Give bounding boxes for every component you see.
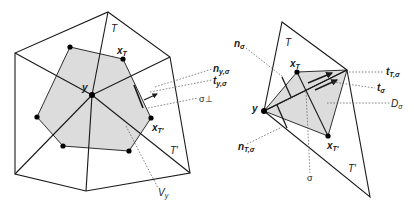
label-xT-right: xT <box>289 58 301 70</box>
label-xTp-left: xT′ <box>151 122 164 134</box>
label-t-T-sigma: tT,σ <box>386 66 400 79</box>
label-t-y-sigma: ty,σ <box>213 75 227 88</box>
label-D-sigma: Dσ <box>391 98 403 110</box>
center-xT-right <box>294 69 299 74</box>
label-Tprime-right: T′ <box>348 163 357 174</box>
diagram-canvas: T T′ xT xT′ y ny,σ ty,σ σ⊥ Vy <box>0 0 414 207</box>
vertex-y-left <box>89 92 95 98</box>
label-t-sigma: tσ <box>377 82 385 94</box>
label-Vy: Vy <box>158 187 169 200</box>
label-y-right: y <box>251 103 258 114</box>
right-figure: T T′ xT xT′ y nσ nT,σ tT,σ tσ Dσ σ <box>234 22 403 197</box>
label-T-right: T <box>285 37 292 48</box>
dual-cell-vy <box>37 47 151 151</box>
label-sigma: σ <box>307 173 313 183</box>
label-n-T-sigma: nT,σ <box>238 141 255 154</box>
left-figure: T T′ xT xT′ y ny,σ ty,σ σ⊥ Vy <box>15 12 230 200</box>
vertex-y-right <box>261 108 267 114</box>
label-Tprime-left: T′ <box>170 145 179 156</box>
label-xT-left: xT <box>116 45 128 57</box>
label-xTp-right: xT′ <box>326 140 339 152</box>
label-T-left: T <box>111 23 118 34</box>
center-xTp-right <box>325 133 330 138</box>
label-n-sigma: nσ <box>234 38 245 50</box>
label-sigma-perp: σ⊥ <box>199 94 213 104</box>
label-y-left: y <box>81 82 88 93</box>
normal-vector-left <box>144 94 157 100</box>
